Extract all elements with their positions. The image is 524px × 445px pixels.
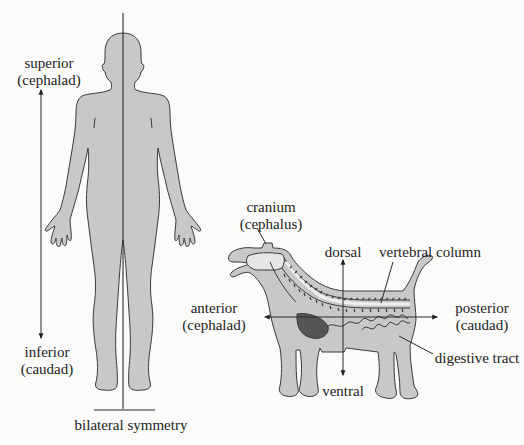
ventral-label: ventral xyxy=(316,383,370,400)
cranial-cavity xyxy=(246,253,284,270)
dorsal-label: dorsal xyxy=(320,244,366,261)
posterior-label: posterior (caudad) xyxy=(447,300,517,334)
inferior-label: inferior (caudad) xyxy=(12,344,82,378)
digestive-tract-label: digestive tract xyxy=(432,350,522,367)
anatomy-figure: superior (cephalad) inferior (caudad) bi… xyxy=(0,0,524,445)
anterior-label: anterior (cephalad) xyxy=(174,300,254,334)
superior-label: superior (cephalad) xyxy=(14,55,84,89)
vertebral-column-label: vertebral column xyxy=(370,244,490,261)
cranium-label: cranium (cephalus) xyxy=(236,199,306,233)
bilateral-symmetry-caption: bilateral symmetry xyxy=(71,417,191,434)
